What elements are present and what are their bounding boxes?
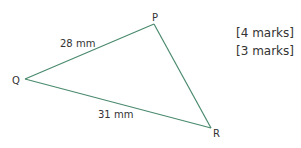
vertex-label-r: R (213, 128, 220, 139)
side-label-qr: 31 mm (98, 109, 133, 120)
side-qr (25, 79, 211, 128)
marks-label-1: [4 marks] (236, 26, 294, 40)
side-label-qp: 28 mm (60, 38, 95, 49)
marks-label-2: [3 marks] (236, 44, 294, 58)
triangle-diagram: P Q R 28 mm 31 mm (0, 0, 301, 148)
side-qp (25, 24, 154, 79)
vertex-label-p: P (152, 12, 158, 23)
side-pr (154, 24, 211, 128)
vertex-label-q: Q (12, 75, 20, 86)
